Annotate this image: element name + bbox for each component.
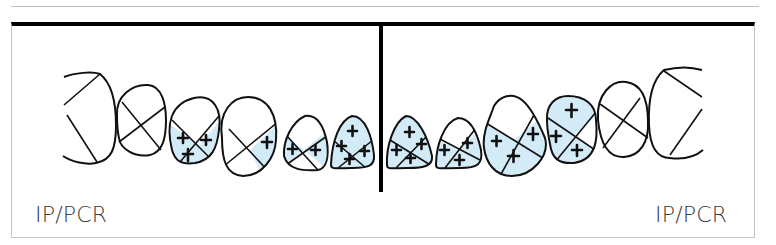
tooth-1: [63, 73, 116, 164]
label-right-ip-pcr: IP/PCR: [655, 202, 727, 227]
tooth-7: [387, 116, 432, 168]
tooth-8: [430, 118, 490, 175]
label-left-ip-pcr: IP/PCR: [35, 202, 107, 227]
tooth-6: [331, 116, 374, 168]
tooth-10: [540, 90, 605, 175]
tooth-9: [478, 96, 555, 185]
tooth-4: [221, 97, 282, 180]
tooth-12: [649, 67, 703, 158]
tooth-5: [278, 116, 334, 175]
tooth-3: [160, 97, 225, 175]
tooth-11: [598, 82, 648, 157]
tooth-2: [117, 85, 166, 156]
